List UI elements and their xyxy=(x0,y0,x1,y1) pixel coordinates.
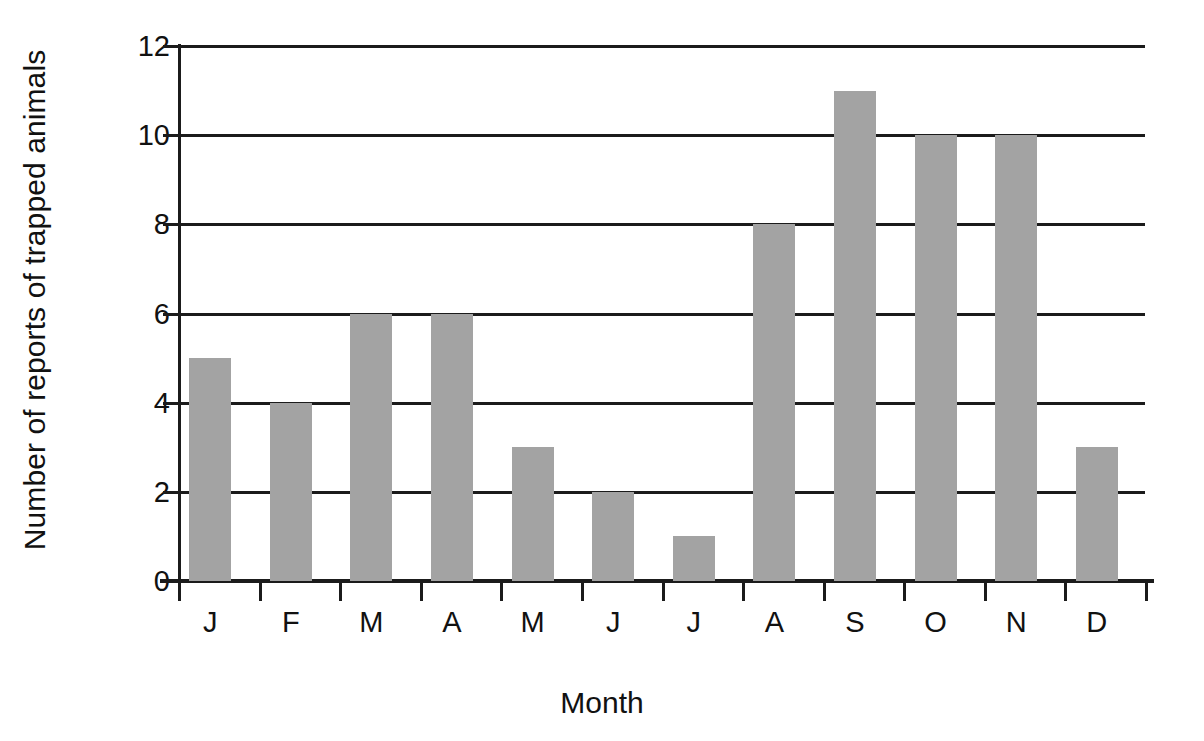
x-tick-mark xyxy=(420,583,423,601)
x-tick-mark xyxy=(1064,583,1067,601)
x-tick-mark xyxy=(500,583,503,601)
x-tick-mark xyxy=(742,583,745,601)
bar xyxy=(189,358,231,581)
bar xyxy=(1076,447,1118,581)
bar xyxy=(592,492,634,581)
bar xyxy=(753,224,795,581)
y-tick-mark xyxy=(163,402,179,405)
x-tick-mark xyxy=(984,583,987,601)
y-tick-mark xyxy=(163,491,179,494)
x-axis-title: Month xyxy=(0,686,1204,720)
x-tick-mark xyxy=(662,583,665,601)
y-axis-title: Number of reports of trapped animals xyxy=(18,50,52,551)
x-tick-label: F xyxy=(282,608,300,637)
y-tick-mark xyxy=(163,313,179,316)
x-tick-label: S xyxy=(845,608,864,637)
x-tick-label: M xyxy=(359,608,383,637)
x-tick-label: A xyxy=(765,608,784,637)
x-tick-mark xyxy=(259,583,262,601)
bars-group xyxy=(178,46,1145,581)
bar xyxy=(834,91,876,581)
x-tick-mark xyxy=(581,583,584,601)
bar xyxy=(512,447,554,581)
x-tick-label: N xyxy=(1006,608,1027,637)
y-tick-mark xyxy=(163,223,179,226)
x-tick-mark xyxy=(823,583,826,601)
bar xyxy=(350,314,392,582)
x-tick-label: J xyxy=(606,608,621,637)
x-tick-mark xyxy=(1145,583,1148,601)
bar xyxy=(915,135,957,581)
y-tick-mark xyxy=(163,134,179,137)
bar xyxy=(673,536,715,581)
x-tick-label: D xyxy=(1086,608,1107,637)
bar xyxy=(431,314,473,582)
x-tick-mark xyxy=(339,583,342,601)
x-tick-label: A xyxy=(442,608,461,637)
y-axis-tick-labels: 024681012 xyxy=(66,0,170,741)
bar xyxy=(995,135,1037,581)
y-tick-mark xyxy=(163,45,179,48)
y-axis-title-container: Number of reports of trapped animals xyxy=(0,0,70,600)
x-tick-label: O xyxy=(924,608,947,637)
x-tick-label: J xyxy=(687,608,702,637)
y-tick-mark xyxy=(163,580,179,583)
bar xyxy=(270,403,312,581)
bar-chart-figure: Number of reports of trapped animals 024… xyxy=(0,0,1204,741)
x-tick-mark xyxy=(178,583,181,601)
x-tick-label: M xyxy=(521,608,545,637)
x-tick-label: J xyxy=(203,608,218,637)
plot-area xyxy=(178,46,1145,581)
x-tick-mark xyxy=(903,583,906,601)
